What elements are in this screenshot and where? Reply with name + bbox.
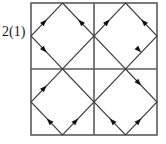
diagram-svg	[0, 0, 166, 144]
figure-container: 2(1)	[0, 0, 166, 144]
